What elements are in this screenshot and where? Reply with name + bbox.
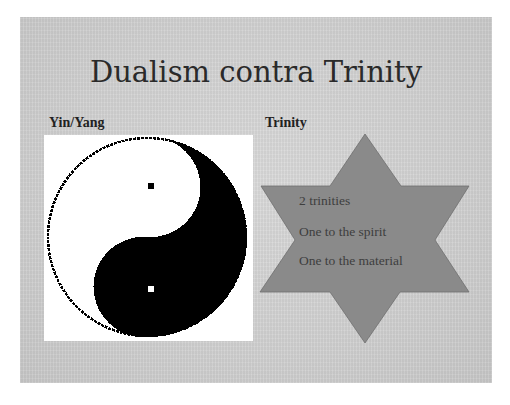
star-line-1: 2 trinities <box>299 193 350 209</box>
six-pointed-star-icon <box>20 17 492 383</box>
slide: Dualism contra Trinity Yin/Yang Trinity … <box>20 17 492 383</box>
star-line-2: One to the spirit <box>299 224 386 240</box>
star-line-3: One to the material <box>299 253 403 269</box>
